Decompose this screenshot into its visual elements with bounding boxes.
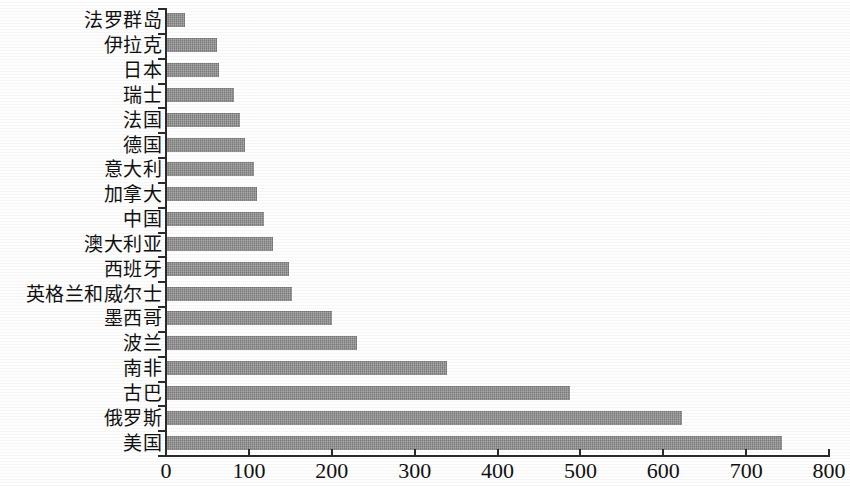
- bar: [167, 237, 273, 251]
- x-axis-tick-label: 100: [232, 460, 265, 482]
- bar-row: 意大利: [0, 157, 850, 182]
- y-axis-tick: [158, 256, 166, 258]
- bar-row: 英格兰和威尔士: [0, 281, 850, 306]
- category-label: 伊拉克: [104, 36, 163, 55]
- y-axis-tick: [158, 356, 166, 358]
- bar: [167, 212, 264, 226]
- bar: [167, 113, 240, 127]
- y-axis-tick: [158, 331, 166, 333]
- y-axis-tick: [158, 207, 166, 209]
- y-axis-tick: [158, 405, 166, 407]
- category-label: 法罗群岛: [84, 11, 162, 30]
- bar-row: 美国: [0, 430, 850, 455]
- bar-row: 瑞士: [0, 83, 850, 108]
- y-axis-tick: [158, 8, 166, 10]
- bar-row: 西班牙: [0, 256, 850, 281]
- bar: [167, 336, 357, 350]
- y-axis-tick: [158, 132, 166, 134]
- category-label: 中国: [123, 210, 162, 229]
- y-axis-tick: [158, 58, 166, 60]
- category-label: 澳大利亚: [84, 234, 162, 253]
- x-axis-tick-label: 800: [813, 460, 846, 482]
- category-label: 意大利: [104, 160, 163, 179]
- bar-row: 波兰: [0, 331, 850, 356]
- bar-row: 俄罗斯: [0, 405, 850, 430]
- bar-row: 法国: [0, 107, 850, 132]
- category-label: 瑞士: [123, 85, 162, 104]
- x-axis-tick: [828, 449, 830, 457]
- category-label: 德国: [123, 135, 162, 154]
- y-axis-tick: [158, 381, 166, 383]
- y-axis-tick: [158, 430, 166, 432]
- bar-row: 古巴: [0, 381, 850, 406]
- y-axis-tick: [158, 83, 166, 85]
- x-axis-tick: [745, 449, 747, 457]
- bar: [167, 38, 217, 52]
- x-axis-tick: [248, 449, 250, 457]
- y-axis-tick: [158, 281, 166, 283]
- x-axis-tick: [662, 449, 664, 457]
- bar: [167, 361, 447, 375]
- bar-rows: 法罗群岛伊拉克日本瑞士法国德国意大利加拿大中国澳大利亚西班牙英格兰和威尔士墨西哥…: [0, 8, 850, 455]
- bar-row: 伊拉克: [0, 33, 850, 58]
- bar: [167, 187, 257, 201]
- y-axis-tick: [158, 107, 166, 109]
- bar: [167, 138, 245, 152]
- bar: [167, 287, 292, 301]
- bar: [167, 88, 234, 102]
- category-label: 日本: [123, 61, 162, 80]
- bar-row: 澳大利亚: [0, 232, 850, 257]
- x-axis-tick: [331, 449, 333, 457]
- x-axis-tick: [579, 449, 581, 457]
- bar-row: 日本: [0, 58, 850, 83]
- category-label: 英格兰和威尔士: [26, 284, 163, 303]
- y-axis-tick: [158, 182, 166, 184]
- x-axis-tick-label: 700: [730, 460, 763, 482]
- bar-row: 加拿大: [0, 182, 850, 207]
- bar-row: 德国: [0, 132, 850, 157]
- y-axis-tick: [158, 33, 166, 35]
- bar: [167, 411, 682, 425]
- category-label: 南非: [123, 359, 162, 378]
- y-axis-tick: [158, 157, 166, 159]
- y-axis-tick: [158, 306, 166, 308]
- y-axis-tick: [158, 232, 166, 234]
- bar: [167, 436, 782, 450]
- bar-row: 法罗群岛: [0, 8, 850, 33]
- bar-chart: 法罗群岛伊拉克日本瑞士法国德国意大利加拿大中国澳大利亚西班牙英格兰和威尔士墨西哥…: [0, 0, 850, 486]
- category-label: 法国: [123, 110, 162, 129]
- bar: [167, 386, 570, 400]
- bar: [167, 311, 332, 325]
- category-label: 波兰: [123, 334, 162, 353]
- bar: [167, 63, 219, 77]
- x-axis-tick: [497, 449, 499, 457]
- category-label: 西班牙: [104, 259, 163, 278]
- bar-row: 南非: [0, 356, 850, 381]
- x-axis-tick-label: 300: [398, 460, 431, 482]
- x-axis-tick-label: 0: [161, 460, 172, 482]
- x-axis-tick: [414, 449, 416, 457]
- x-axis-tick: [165, 449, 167, 457]
- x-axis-tick-label: 500: [564, 460, 597, 482]
- x-axis-tick-label: 600: [647, 460, 680, 482]
- x-axis-tick-label: 400: [481, 460, 514, 482]
- bar: [167, 13, 185, 27]
- category-label: 加拿大: [104, 185, 163, 204]
- category-label: 俄罗斯: [104, 408, 163, 427]
- category-label: 墨西哥: [104, 309, 163, 328]
- x-axis-tick-label: 200: [315, 460, 348, 482]
- bar-row: 墨西哥: [0, 306, 850, 331]
- category-label: 古巴: [123, 383, 162, 402]
- bar: [167, 262, 289, 276]
- bar-row: 中国: [0, 207, 850, 232]
- bar: [167, 162, 254, 176]
- category-label: 美国: [123, 433, 162, 452]
